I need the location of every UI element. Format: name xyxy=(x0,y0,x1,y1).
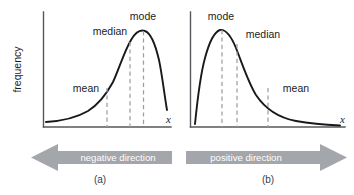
panel-a-x-axis-label: x xyxy=(165,113,171,125)
panel-b-caption: (b) xyxy=(262,174,274,185)
panel-a-median-label: median xyxy=(93,25,128,37)
panel-a-distribution-curve xyxy=(46,30,167,122)
panel-b-mode-label: mode xyxy=(208,10,234,22)
panel-b-direction-arrow-label: positive direction xyxy=(210,152,281,163)
figure-canvas: frequency x mean median mode negative di… xyxy=(0,0,354,195)
panel-a-mode-label: mode xyxy=(130,10,156,22)
panel-b: frequency x mode median mean positive di… xyxy=(168,10,347,185)
panel-a-caption: (a) xyxy=(94,174,106,185)
panel-b-median-label: median xyxy=(246,28,281,40)
panel-a-mean-label: mean xyxy=(73,82,99,94)
panel-a-direction-arrow-label: negative direction xyxy=(80,152,155,163)
panel-a: frequency x mean median mode negative di… xyxy=(11,10,172,185)
panel-b-mean-label: mean xyxy=(283,82,309,94)
panel-b-x-axis-label: x xyxy=(339,113,345,125)
panel-a-y-axis-label: frequency xyxy=(11,46,23,93)
skewness-figure: frequency x mean median mode negative di… xyxy=(0,0,354,195)
